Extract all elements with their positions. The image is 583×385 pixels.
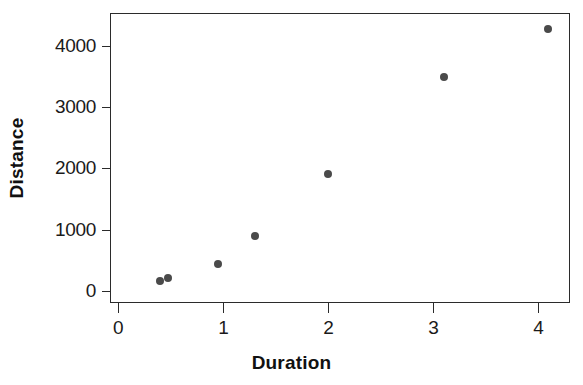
plot-area [110,13,570,303]
x-tick-mark [328,303,329,313]
y-tick-label: 3000 [26,97,96,116]
data-point [164,274,172,282]
y-tick-label: 2000 [26,158,96,177]
y-axis-title: Distance [6,118,28,199]
data-points-layer [111,14,569,302]
data-point [544,25,552,33]
x-tick-label: 3 [413,318,453,338]
data-point [440,73,448,81]
x-tick-label: 4 [518,318,558,338]
x-tick-label: 0 [98,318,138,338]
y-tick-label: 0 [26,281,96,300]
scatter-plot-figure: Distance 01000200030004000 01234 Duratio… [0,0,583,385]
x-tick-label: 1 [203,318,243,338]
x-tick-label: 2 [308,318,348,338]
x-tick-mark [118,303,119,313]
x-axis-title: Duration [0,352,583,374]
x-tick-mark [433,303,434,313]
y-tick-label: 4000 [26,36,96,55]
x-tick-mark [538,303,539,313]
data-point [214,260,222,268]
y-tick-label: 1000 [26,220,96,239]
data-point [324,170,332,178]
data-point [251,232,259,240]
x-tick-mark [223,303,224,313]
